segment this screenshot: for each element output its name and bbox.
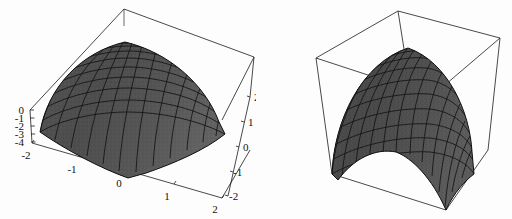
left-y-tick-m1: -1 <box>233 166 242 178</box>
left-y-tick-m2: -2 <box>229 190 238 202</box>
box-vertical-left-right <box>316 58 332 174</box>
left-z-ticks <box>30 110 36 142</box>
left-x-tick-0: 0 <box>116 177 122 189</box>
left-surface <box>37 42 225 178</box>
plot-panel-left: 0 -1 -2 -3 -4 -2 -1 0 1 2 2 1 0 -1 -2 <box>0 0 256 219</box>
left-surface-shading <box>40 42 225 178</box>
left-x-tick-m2: -2 <box>21 149 30 161</box>
right-surface <box>332 47 474 210</box>
box-z-axis-left <box>30 110 32 143</box>
left-x-tick-1: 1 <box>164 190 170 202</box>
right-surface-shading <box>332 48 474 210</box>
left-y-tick-1: 1 <box>248 116 254 128</box>
left-plot-canvas: 0 -1 -2 -3 -4 -2 -1 0 1 2 2 1 0 -1 -2 <box>0 0 256 219</box>
left-x-tick-2: 2 <box>212 203 218 215</box>
box-vertical-back-right <box>398 11 404 49</box>
left-x-tick-m1: -1 <box>67 163 76 175</box>
right-plot-canvas <box>256 0 512 219</box>
plot-panel-right <box>256 0 512 219</box>
left-z-tick-m4: -4 <box>15 136 25 148</box>
box-vertical-right-right <box>488 38 500 150</box>
surface-plot-figure: 0 -1 -2 -3 -4 -2 -1 0 1 2 2 1 0 -1 -2 <box>0 0 512 219</box>
left-y-tick-0: 0 <box>243 141 249 153</box>
